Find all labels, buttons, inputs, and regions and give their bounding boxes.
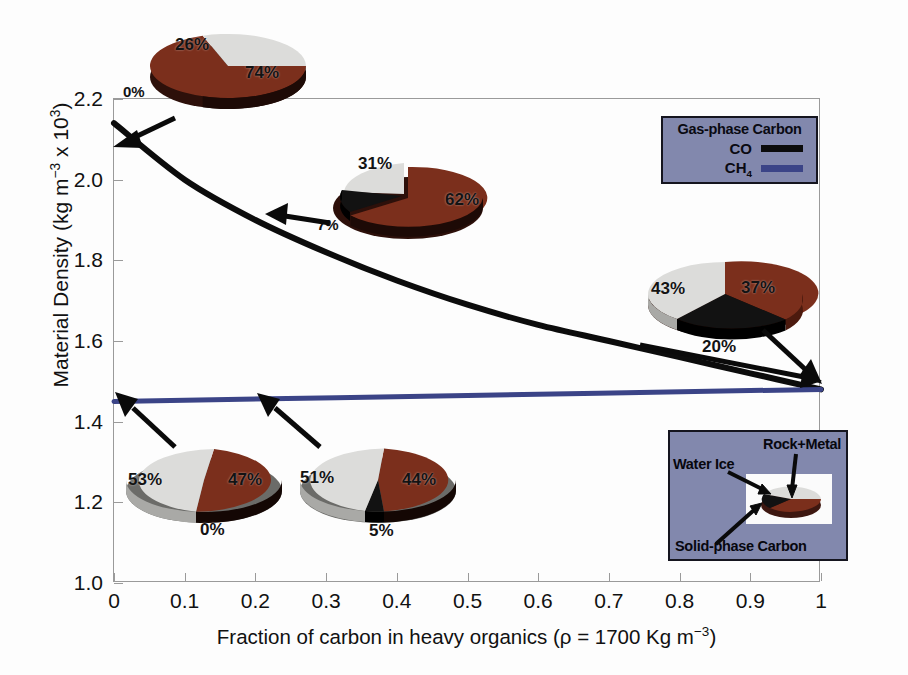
y-axis-label: Material Density (kg m−3 x 103) (47, 35, 73, 455)
pie-converged-x1-pct-carbon: 20% (702, 337, 736, 357)
pie-co-x0: 74% 26% 0% (140, 14, 320, 114)
figure-root: Material Density (kg m−3 x 103) Fraction… (0, 0, 908, 675)
x-tick-mark (680, 573, 681, 581)
x-tick-label: 0.3 (311, 589, 340, 613)
legend-label-ch4: CH4 (725, 159, 752, 179)
x-tick-label: 0.5 (453, 589, 482, 613)
x-tick-label: 0.8 (665, 589, 694, 613)
pie-converged-x1-pct-rock: 37% (741, 278, 775, 298)
pie-ch4-x02-pct-carbon: 5% (369, 521, 394, 541)
pie-ch4-x0-pct-rock: 47% (228, 470, 262, 490)
pie-co-x02-pct-water: 31% (358, 154, 392, 174)
x-tick-mark (821, 573, 822, 581)
x-tick-label: 0.6 (524, 589, 553, 613)
series-line-ch4 (114, 389, 821, 401)
x-tick-mark (185, 573, 186, 581)
x-tick-mark (326, 573, 327, 581)
x-axis-label: Fraction of carbon in heavy organics (ρ … (113, 624, 820, 649)
legend-title: Gas-phase Carbon (669, 121, 810, 138)
pie-co-x0-pct-carbon: 0% (123, 83, 145, 100)
y-tick-label: 1.8 (74, 248, 114, 272)
x-tick-label: 0 (108, 589, 120, 613)
x-tick-mark (538, 573, 539, 581)
y-tick-mark (114, 180, 123, 181)
pie-co-x02-pct-carbon: 7% (317, 216, 339, 233)
x-tick-label: 0.9 (736, 589, 765, 613)
pie-co-x02: 62% 31% 7% (300, 150, 510, 260)
y-tick-mark (114, 422, 123, 423)
x-tick-mark (609, 573, 610, 581)
y-tick-label: 2.0 (74, 168, 114, 192)
pie-converged-x1-pct-water: 43% (651, 279, 685, 299)
pie-ch4-x02-pct-water: 51% (300, 468, 334, 488)
legend-row-co: CO (669, 140, 810, 157)
pie-converged-x1: 37% 43% 20% (625, 246, 835, 366)
pie-ch4-x0-pct-carbon: 0% (200, 520, 225, 540)
x-tick-label: 1 (815, 589, 827, 613)
legend-swatch-co (761, 145, 803, 152)
legend-gas-phase-carbon: Gas-phase Carbon CO CH4 (661, 116, 818, 184)
legend-pie-graphics (670, 432, 850, 563)
x-tick-mark (255, 573, 256, 581)
pie-co-x02-pct-rock: 62% (445, 190, 479, 210)
legend-row-ch4: CH4 (669, 159, 810, 179)
y-tick-label: 1.4 (74, 410, 114, 434)
x-tick-mark (750, 573, 751, 581)
legend-pie-key: Rock+Metal Water Ice Solid-phase Carbon (668, 430, 848, 561)
x-tick-mark (397, 573, 398, 581)
x-tick-mark (114, 573, 115, 581)
pie-co-x0-graphic (140, 14, 320, 114)
pie-co-x0-pct-rock: 74% (245, 63, 279, 83)
pie-ch4-x02-pct-rock: 44% (402, 470, 436, 490)
y-tick-mark (114, 99, 123, 100)
y-tick-label: 2.2 (74, 87, 114, 111)
legend-label-co: CO (730, 140, 753, 157)
x-tick-label: 0.2 (241, 589, 270, 613)
x-tick-label: 0.4 (382, 589, 411, 613)
x-tick-label: 0.1 (170, 589, 199, 613)
y-tick-label: 1.6 (74, 329, 114, 353)
y-tick-mark (114, 341, 123, 342)
x-tick-mark (468, 573, 469, 581)
pie-ch4-x02: 44% 51% 5% (270, 432, 485, 547)
legend-swatch-ch4 (761, 165, 803, 172)
pie-ch4-x0-pct-water: 53% (128, 470, 162, 490)
y-tick-mark (114, 583, 123, 584)
y-tick-mark (114, 260, 123, 261)
x-tick-label: 0.7 (594, 589, 623, 613)
pie-co-x0-pct-water: 26% (175, 35, 209, 55)
